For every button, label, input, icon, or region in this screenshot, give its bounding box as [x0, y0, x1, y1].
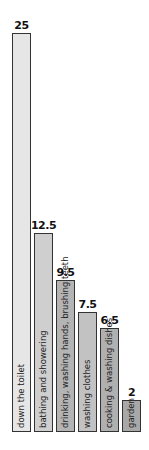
category-label: garden [126, 398, 136, 428]
value-label: 25 [9, 19, 35, 32]
category-label: drinking, washing hands, brushing teeth [60, 256, 70, 428]
category-label: down the toilet [16, 364, 26, 428]
value-label: 12.5 [31, 219, 57, 232]
category-label: washing clothes [82, 360, 92, 428]
category-label: bathing and showering [38, 330, 48, 428]
category-label: cooking & washing dishes [104, 318, 114, 428]
value-label: 7.5 [75, 298, 101, 311]
